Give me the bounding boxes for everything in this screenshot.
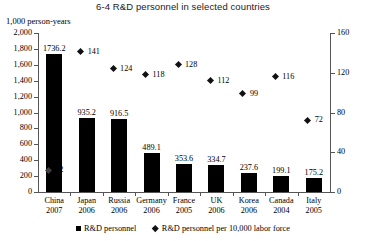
left-axis-tick <box>34 176 38 177</box>
category-name: Italy <box>306 196 321 205</box>
diamond-value-label: 124 <box>120 64 132 73</box>
bar <box>79 118 95 192</box>
left-axis-tick-label: 1,600 <box>0 61 32 69</box>
left-axis-tick-label: 800 <box>0 124 32 132</box>
diamond-marker <box>77 48 84 55</box>
left-axis-tick <box>34 192 38 193</box>
bar-value-label: 175.2 <box>292 168 336 177</box>
left-axis-tick-label: 400 <box>0 156 32 164</box>
bar-value-label: 489.1 <box>130 143 174 152</box>
left-axis-tick <box>34 97 38 98</box>
bar-value-label: 1736.2 <box>32 44 76 53</box>
diamond-value-label: 141 <box>88 47 100 56</box>
bar <box>208 165 224 192</box>
category-year: 2005 <box>290 206 338 216</box>
category-name: China <box>44 196 64 205</box>
category-name: Korea <box>239 196 259 205</box>
legend-item-bars: R&D personnel <box>76 224 136 233</box>
bar <box>241 173 257 192</box>
left-axis-tick-label: 1,800 <box>0 45 32 53</box>
category-name: Japan <box>77 196 96 205</box>
bar <box>306 178 322 192</box>
category-name: UK <box>211 196 223 205</box>
bar-value-label: 916.5 <box>97 109 141 118</box>
left-axis-line <box>38 33 39 193</box>
diamond-value-label: 128 <box>185 60 197 69</box>
legend-label-points: R&D personnel per 10,000 labor force <box>162 224 290 233</box>
right-axis-tick <box>331 33 335 34</box>
left-axis-tick-label: 600 <box>0 140 32 148</box>
diamond-marker <box>110 65 117 72</box>
right-axis-tick <box>331 113 335 114</box>
diamond-value-label: 72 <box>315 115 323 124</box>
left-axis-tick <box>34 144 38 145</box>
y-axis-unit-label: 1,000 person-years <box>6 16 71 26</box>
diamond-value-label: 118 <box>153 70 165 79</box>
bottom-axis-line <box>38 192 331 193</box>
bar <box>273 176 289 192</box>
right-axis-tick <box>331 73 335 74</box>
category-label: Italy2005 <box>290 196 338 215</box>
left-axis-tick <box>34 33 38 34</box>
right-axis-tick <box>331 152 335 153</box>
right-axis-tick-label: 40 <box>337 148 363 156</box>
left-axis-tick <box>34 160 38 161</box>
chart-legend: R&D personnel R&D personnel per 10,000 l… <box>0 224 366 233</box>
right-axis-tick-label: 120 <box>337 69 363 77</box>
left-axis-tick <box>34 128 38 129</box>
left-axis-tick-label: 2,000 <box>0 29 32 37</box>
left-axis-tick <box>34 113 38 114</box>
left-axis-tick <box>34 81 38 82</box>
legend-label-bars: R&D personnel <box>84 224 136 233</box>
diamond-marker <box>272 73 279 80</box>
diamond-marker <box>239 90 246 97</box>
left-axis-tick-label: 200 <box>0 172 32 180</box>
diamond-value-label: 112 <box>217 76 229 85</box>
bar <box>144 153 160 192</box>
bar <box>176 164 192 192</box>
right-axis-tick-label: 80 <box>337 109 363 117</box>
left-axis-tick-label: 0 <box>0 188 32 196</box>
diamond-value-label: 99 <box>250 89 258 98</box>
diamond-marker <box>174 61 181 68</box>
diamond-marker <box>304 117 311 124</box>
bar <box>111 119 127 192</box>
legend-item-points: R&D personnel per 10,000 labor force <box>152 224 290 233</box>
diamond-marker <box>207 77 214 84</box>
right-axis-tick-label: 0 <box>337 188 363 196</box>
diamond-value-label: 22 <box>55 165 63 174</box>
diamond-value-label: 116 <box>282 72 294 81</box>
chart-title: 6-4 R&D personnel in selected countries <box>0 1 366 12</box>
diamond-marker-icon <box>152 225 158 231</box>
left-axis-tick-label: 1,200 <box>0 93 32 101</box>
right-axis-tick <box>331 192 335 193</box>
left-axis-tick-label: 1,400 <box>0 77 32 85</box>
diamond-marker <box>142 71 149 78</box>
left-axis-tick-label: 1,000 <box>0 109 32 117</box>
left-axis-tick <box>34 65 38 66</box>
right-axis-tick-label: 160 <box>337 29 363 37</box>
square-marker-icon <box>76 226 81 231</box>
